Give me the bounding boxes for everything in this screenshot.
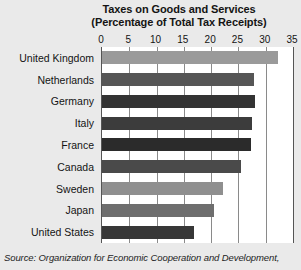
bar [102, 51, 278, 64]
plot-area [101, 47, 294, 243]
category-label: United States [0, 226, 97, 238]
bar [102, 138, 251, 151]
bar-row [102, 178, 293, 200]
category-label: Canada [0, 161, 97, 173]
bar [102, 117, 252, 130]
bar-row [102, 91, 293, 113]
x-tick-label: 10 [150, 34, 161, 45]
bar [102, 73, 254, 86]
chart-title: Taxes on Goods and Services (Percentage … [60, 3, 298, 29]
bar-row [102, 199, 293, 221]
category-label: Germany [0, 95, 97, 107]
bar-row [102, 134, 293, 156]
x-tick-label: 30 [259, 34, 270, 45]
x-tick-label: 5 [126, 34, 132, 45]
category-label: France [0, 139, 97, 151]
x-tick-label: 15 [177, 34, 188, 45]
bar-series [102, 47, 293, 243]
chart-subtitle: (Percentage of Total Tax Receipts) [60, 16, 298, 29]
category-label: Japan [0, 204, 97, 216]
category-label: Sweden [0, 183, 97, 195]
bar [102, 95, 255, 108]
bar-row [102, 112, 293, 134]
x-tick-label: 0 [98, 34, 104, 45]
bar [102, 182, 223, 195]
category-label: United Kingdom [0, 52, 97, 64]
category-label: Netherlands [0, 74, 97, 86]
chart-figure: Taxes on Goods and Services (Percentage … [0, 0, 301, 270]
x-tick-label: 20 [205, 34, 216, 45]
bar-row [102, 69, 293, 91]
x-tick-label: 35 [286, 34, 297, 45]
bar-row [102, 156, 293, 178]
bar-row [102, 221, 293, 243]
bar [102, 204, 214, 217]
category-label: Italy [0, 117, 97, 129]
chart-title-main: Taxes on Goods and Services [103, 3, 256, 15]
x-axis-tick-labels: 05101520253035 [101, 34, 292, 47]
bar-row [102, 47, 293, 69]
bar [102, 160, 241, 173]
y-axis-category-labels: United KingdomNetherlandsGermanyItalyFra… [0, 47, 97, 243]
x-tick-label: 25 [232, 34, 243, 45]
bar [102, 226, 194, 239]
source-note: Source: Organization for Economic Cooper… [4, 252, 279, 263]
